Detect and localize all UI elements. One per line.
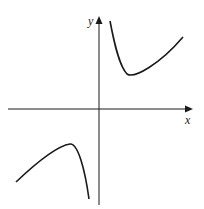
x-axis-arrow-icon	[185, 106, 193, 113]
x-axis-label: x	[184, 113, 191, 127]
y-axis-arrow-icon	[96, 16, 103, 24]
y-axis-label: y	[87, 14, 94, 28]
lower-left-branch-curve	[16, 144, 89, 199]
upper-right-branch-curve	[110, 21, 183, 75]
function-graph: y x	[0, 0, 204, 209]
